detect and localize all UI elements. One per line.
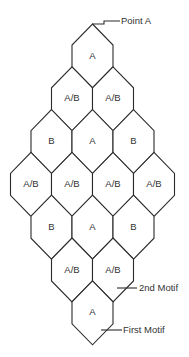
callout-first-motif-label: First Motif <box>123 324 165 335</box>
hexagon-label: B <box>48 135 54 146</box>
callout-point-a-label: Point A <box>121 15 152 26</box>
callout-point-a: Point A <box>92 15 152 26</box>
hexagon-label: A/B <box>105 264 120 275</box>
hexagon-label: A/B <box>105 178 120 189</box>
hexagon-motif-diagram: AA/BA/BBABA/BA/BA/BA/BBABA/BA/BA Point A… <box>0 0 189 357</box>
hexagon-label: A <box>89 50 96 61</box>
hexagon-label: B <box>130 221 136 232</box>
hexagon-label: B <box>48 221 54 232</box>
hexagon-label: A/B <box>64 92 79 103</box>
hexagon-label: A <box>89 221 96 232</box>
hexagon-label: A <box>89 306 96 317</box>
callout-second-motif-label: 2nd Motif <box>139 282 178 293</box>
leader-line-point-a <box>92 21 120 24</box>
hexagon-label: A/B <box>64 178 79 189</box>
hexagon-label: A/B <box>105 92 120 103</box>
hexagon-label: A <box>89 135 96 146</box>
hexagon-label: A/B <box>146 178 161 189</box>
hexagon-label: B <box>130 135 136 146</box>
hexagon-label: A/B <box>23 178 38 189</box>
hexagon-label: A/B <box>64 264 79 275</box>
